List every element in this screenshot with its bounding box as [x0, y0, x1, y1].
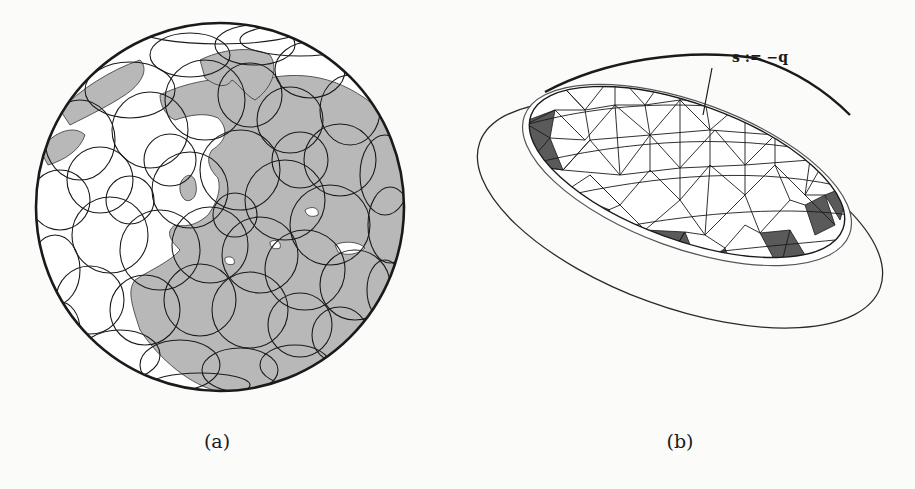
- caption-b: (b): [650, 430, 710, 452]
- panel-a-globe: (a): [0, 0, 455, 489]
- annotation-label: s := −q: [732, 49, 788, 65]
- panel-b-dome: s := −q (b): [455, 0, 915, 489]
- dome-figure: [455, 0, 915, 489]
- caption-a: (a): [187, 430, 247, 452]
- globe-figure: [0, 0, 455, 489]
